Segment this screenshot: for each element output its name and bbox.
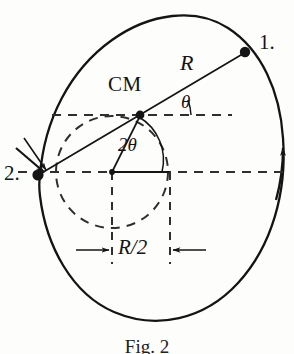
dot-center-of-mass [136,111,145,120]
physics-diagram [0,0,294,354]
figure-container: 1. 2. CM R θ 2θ R/2 Fig. 2 [0,0,294,354]
outer-rolling-curve [39,15,283,320]
cardioid-path [39,15,283,320]
label-point-1: 1. [259,32,275,53]
figure-caption: Fig. 2 [0,336,294,354]
label-radius-r: R [180,52,193,74]
dot-contact-point [109,169,115,175]
dot-point-2 [32,169,43,180]
label-angle-theta: θ [181,92,190,111]
label-angle-two-theta: 2θ [118,135,137,154]
label-point-2: 2. [4,163,20,184]
label-center-of-mass: CM [108,74,142,95]
label-dimension-r-half: R/2 [118,237,147,258]
dot-point-1 [240,47,250,57]
